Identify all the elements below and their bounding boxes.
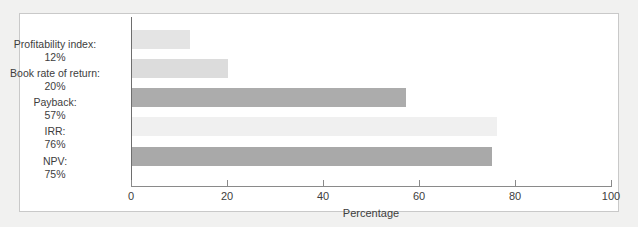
category-name: Payback: [0, 96, 114, 109]
bar-payback [132, 88, 406, 107]
category-label-4: NPV: 75% [0, 155, 114, 180]
bar-irr [132, 117, 497, 136]
category-value: 75% [0, 168, 114, 181]
x-tick-mark [323, 180, 324, 186]
category-label-3: IRR: 76% [0, 125, 114, 150]
x-tick-mark [611, 180, 612, 186]
category-name: NPV: [0, 155, 114, 168]
bar-profitability-index [132, 30, 190, 49]
plot-area: 0 20 40 60 80 100 Percentage [131, 17, 611, 186]
x-tick-label: 100 [602, 190, 620, 202]
category-label-1: Book rate of return: 20% [0, 67, 114, 92]
bar-row [132, 88, 406, 107]
x-tick-mark [419, 180, 420, 186]
category-name: Book rate of return: [0, 67, 114, 80]
bar-row [132, 147, 492, 166]
bar-row [132, 59, 228, 78]
x-tick-label: 80 [509, 190, 521, 202]
x-tick-mark [131, 180, 132, 186]
x-tick-label: 60 [413, 190, 425, 202]
category-value: 76% [0, 138, 114, 151]
figure-container: Profitability index: 12% Book rate of re… [0, 0, 638, 227]
chart-frame: Profitability index: 12% Book rate of re… [19, 13, 619, 212]
bar-row [132, 117, 497, 136]
category-value: 20% [0, 80, 114, 93]
category-name: IRR: [0, 125, 114, 138]
x-axis-title: Percentage [343, 207, 399, 219]
x-tick-mark [515, 180, 516, 186]
bar-book-rate-of-return [132, 59, 228, 78]
category-value: 12% [0, 51, 114, 64]
category-label-0: Profitability index: 12% [0, 38, 114, 63]
bar-npv [132, 147, 492, 166]
x-tick-label: 40 [317, 190, 329, 202]
category-value: 57% [0, 109, 114, 122]
category-name: Profitability index: [0, 38, 114, 51]
x-axis-line [131, 186, 612, 187]
x-tick-label: 0 [128, 190, 134, 202]
x-tick-label: 20 [221, 190, 233, 202]
bar-row [132, 30, 190, 49]
category-label-2: Payback: 57% [0, 96, 114, 121]
x-tick-mark [227, 180, 228, 186]
